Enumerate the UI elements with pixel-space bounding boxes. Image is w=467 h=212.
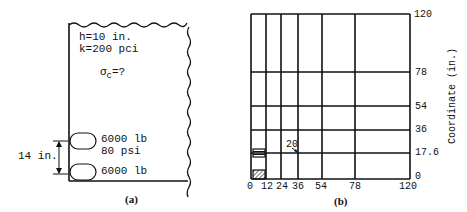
tire-upper — [70, 133, 96, 149]
upper-wheel-load-label: 6000 lb — [101, 133, 147, 145]
slab-drawing — [0, 0, 467, 212]
slab-thickness-label: h=10 in. — [79, 31, 132, 43]
x-tick-0: 0 — [247, 181, 253, 193]
y-tick-54: 54 — [415, 101, 427, 113]
y-tick-120: 120 — [414, 9, 432, 21]
node-20-label: 20 — [286, 139, 298, 151]
x-tick-12: 12 — [261, 181, 273, 193]
x-tick-54: 54 — [315, 181, 327, 193]
stress-symbol: σ — [100, 66, 107, 78]
x-tick-78: 78 — [349, 181, 361, 193]
stress-query-label: σc=? — [100, 66, 125, 82]
y-tick-0: 0 — [415, 171, 421, 183]
subgrade-modulus-label: k=200 pci — [79, 43, 138, 55]
stress-query: =? — [112, 66, 125, 78]
panel-a-caption: (a) — [125, 193, 138, 205]
axle-spacing-label: 14 in. — [18, 150, 58, 162]
coordinate-axis-label: Coordinate (in.) — [447, 41, 459, 151]
wheel-footprint-lower — [253, 170, 265, 179]
y-tick-17-6: 17.6 — [415, 147, 439, 159]
x-tick-24: 24 — [276, 181, 288, 193]
y-tick-36: 36 — [415, 124, 427, 136]
tire-pressure-label: 80 psi — [101, 145, 141, 157]
lower-wheel-load-label: 6000 lb — [101, 165, 147, 177]
panel-b-caption: (b) — [334, 195, 347, 207]
wheel-footprint-upper — [253, 149, 265, 157]
tire-lower — [70, 164, 96, 180]
x-tick-36: 36 — [292, 181, 304, 193]
y-tick-78: 78 — [415, 67, 427, 79]
